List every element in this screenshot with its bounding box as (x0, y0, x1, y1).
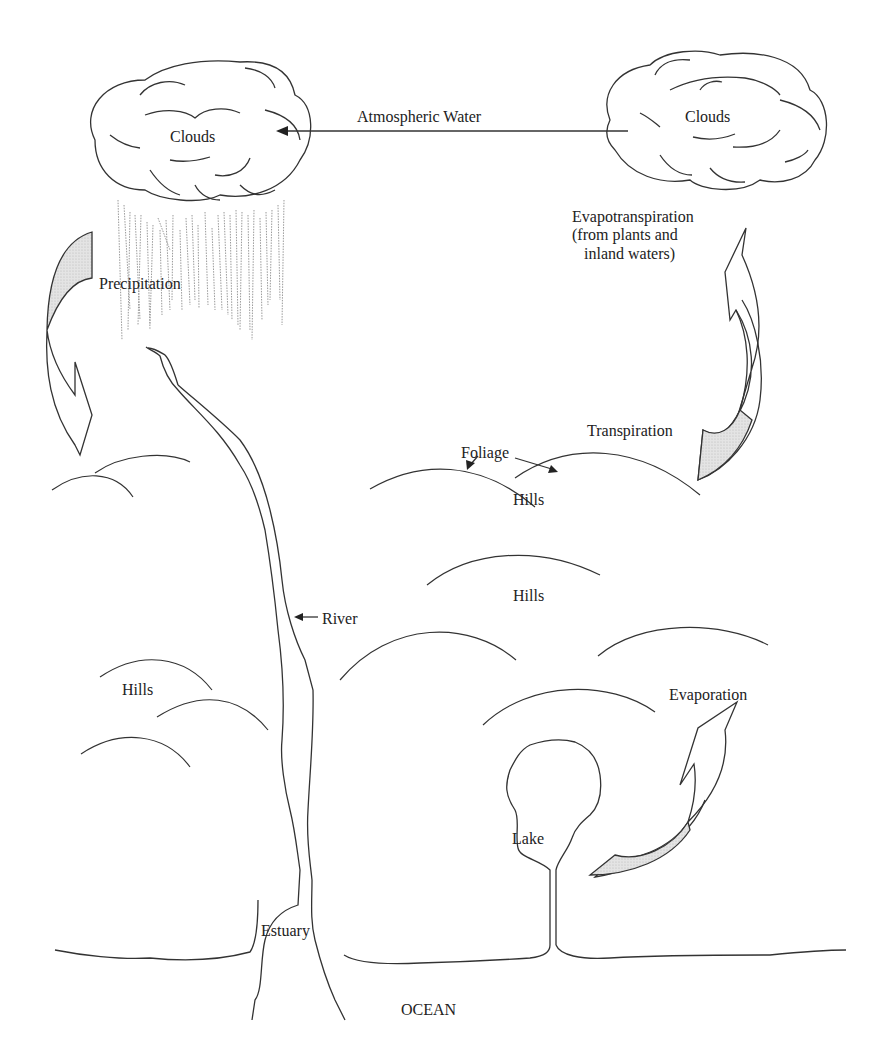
estuary-label: Estuary (261, 922, 310, 940)
ocean-label: OCEAN (401, 1001, 456, 1019)
clouds-left-label: Clouds (170, 128, 215, 146)
precipitation-arrow (47, 232, 92, 455)
water-cycle-diagram (0, 0, 886, 1052)
foliage-label: Foliage (461, 444, 509, 462)
evapotranspiration-label: Evapotranspiration (from plants and inla… (572, 208, 694, 263)
river-label: River (322, 610, 358, 628)
hills-foliage-label: Hills (513, 491, 544, 509)
hill-arcs (52, 453, 768, 767)
river-pointer-arrow (294, 613, 318, 621)
evapotranspiration-arrow (698, 228, 761, 480)
evaporation-arrow (590, 702, 737, 877)
atmospheric-water-arrow (276, 126, 628, 136)
evaporation-label: Evaporation (669, 686, 747, 704)
clouds-right-label: Clouds (685, 108, 730, 126)
transpiration-label: Transpiration (587, 422, 673, 440)
precipitation-label: Precipitation (99, 275, 181, 293)
hills-left-label: Hills (122, 681, 153, 699)
atmospheric-water-label: Atmospheric Water (357, 108, 481, 126)
river (146, 347, 345, 1020)
lake-label: Lake (512, 830, 544, 848)
coastline (55, 900, 846, 964)
hills-center-label: Hills (513, 587, 544, 605)
precipitation-rain (118, 200, 284, 340)
